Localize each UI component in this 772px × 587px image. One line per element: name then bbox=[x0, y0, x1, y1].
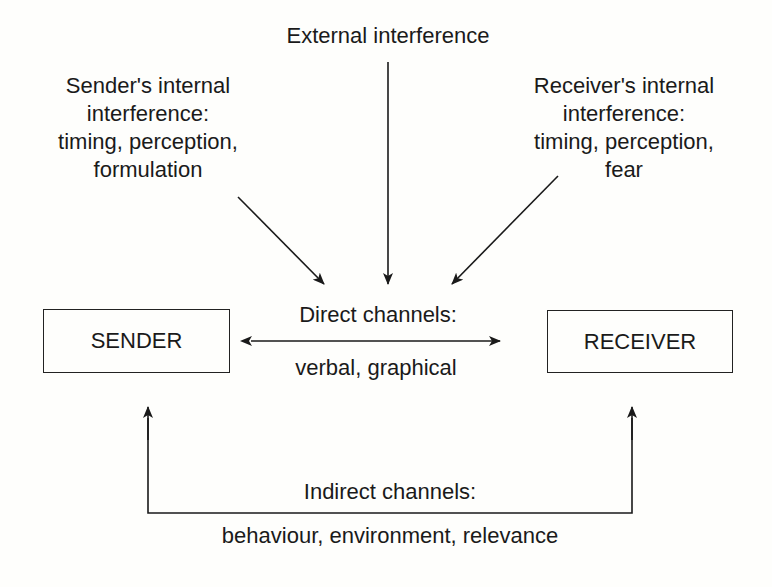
label-line: Receiver's internal bbox=[534, 72, 714, 100]
indirect-channels-title: Indirect channels: bbox=[304, 478, 476, 505]
label-line: timing, perception, bbox=[534, 128, 714, 156]
direct-channels-items: verbal, graphical bbox=[295, 354, 456, 381]
label-line: timing, perception, bbox=[58, 128, 238, 156]
label-text: verbal, graphical bbox=[295, 355, 456, 380]
label-line: interference: bbox=[58, 100, 238, 128]
label-line: Sender's internal bbox=[58, 72, 238, 100]
sender-label: SENDER bbox=[91, 328, 183, 354]
receiver-label: RECEIVER bbox=[584, 329, 696, 355]
receiver-interference-arrow bbox=[452, 176, 558, 284]
label-line: formulation bbox=[58, 156, 238, 184]
sender-interference-arrow bbox=[238, 197, 324, 284]
label-line: External interference bbox=[287, 22, 490, 49]
sender-box: SENDER bbox=[43, 309, 230, 373]
label-line: interference: bbox=[534, 100, 714, 128]
label-line: fear bbox=[534, 156, 714, 184]
direct-channels-title: Direct channels: bbox=[299, 301, 457, 328]
label-text: Direct channels: bbox=[299, 302, 457, 327]
label-text: behaviour, environment, relevance bbox=[222, 523, 558, 548]
external-interference-label: External interference bbox=[287, 22, 490, 49]
receiver-internal-interference-label: Receiver's internal interference: timing… bbox=[534, 72, 714, 184]
indirect-channels-items: behaviour, environment, relevance bbox=[222, 522, 558, 549]
receiver-box: RECEIVER bbox=[547, 310, 733, 373]
sender-internal-interference-label: Sender's internal interference: timing, … bbox=[58, 72, 238, 184]
label-text: Indirect channels: bbox=[304, 479, 476, 504]
